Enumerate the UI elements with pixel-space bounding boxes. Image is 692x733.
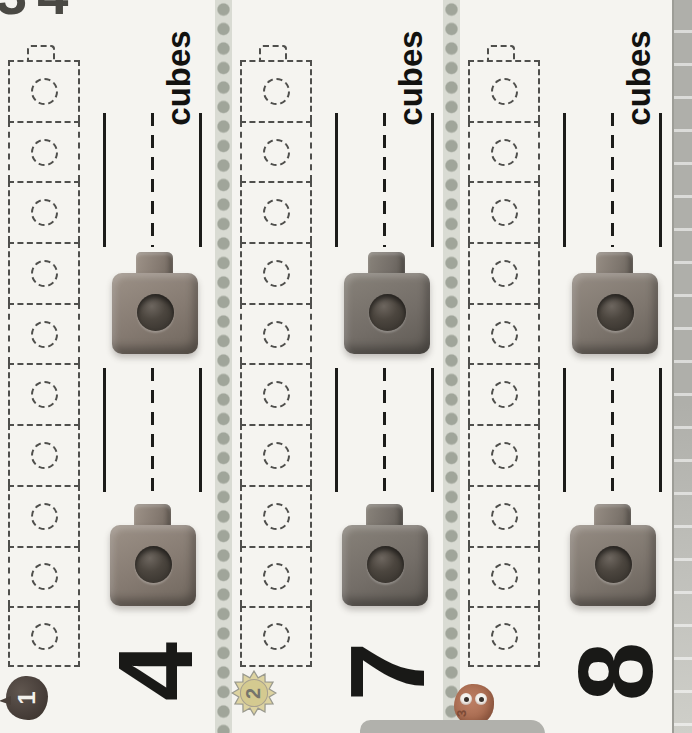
target-number-wrap: 7 <box>332 630 442 712</box>
cube-hole-outline <box>31 623 58 650</box>
cube-hole-outline <box>491 78 518 105</box>
cube-hole-outline <box>31 321 58 348</box>
answer-blank <box>335 113 435 247</box>
cube-hole-outline <box>263 139 290 166</box>
train-cube-outline <box>8 424 80 485</box>
train-cube-outline <box>468 606 540 667</box>
cube-body <box>112 273 198 354</box>
cube-hole-outline <box>31 139 58 166</box>
train-cube-outline <box>240 303 312 364</box>
next-page-corner <box>360 720 545 733</box>
exercise-number: 2 <box>243 687 266 698</box>
monster-eye <box>460 693 472 705</box>
target-number: 7 <box>345 642 430 701</box>
writing-rule-dashed <box>151 113 154 247</box>
train-cells <box>8 60 80 667</box>
answer-blank <box>563 113 663 247</box>
cubes-label: cubes <box>620 30 658 125</box>
target-number: 4 <box>113 642 198 701</box>
writing-rule-solid <box>335 113 338 247</box>
cube-hole <box>137 294 174 331</box>
cube-hole-outline <box>491 260 518 287</box>
writing-rule-solid <box>199 368 202 492</box>
writing-rule-dashed <box>151 368 154 492</box>
cube-hole-outline <box>491 321 518 348</box>
writing-rule-solid <box>431 368 434 492</box>
answer-blank <box>103 368 203 492</box>
cube-hole-outline <box>263 78 290 105</box>
snap-cube-photo <box>342 504 428 606</box>
train-cube-outline <box>8 242 80 303</box>
cubes-label: cubes <box>392 30 430 125</box>
writing-rule-dashed <box>611 368 614 492</box>
train-cube-outline <box>468 424 540 485</box>
cube-hole-outline <box>31 78 58 105</box>
cube-hole <box>595 546 632 583</box>
train-cube-outline <box>240 363 312 424</box>
writing-rule-solid <box>659 368 662 492</box>
cube-body <box>344 273 430 354</box>
writing-rule-solid <box>103 113 106 247</box>
cube-hole-outline <box>31 503 58 530</box>
train-peg-outline <box>27 45 55 60</box>
snap-cube-photo <box>572 252 658 354</box>
train-peg-outline <box>487 45 515 60</box>
exercise-number: 1 <box>13 691 41 704</box>
train-cells <box>468 60 540 667</box>
cube-train-outline <box>8 45 80 667</box>
writing-rule-solid <box>335 368 338 492</box>
cube-hole-outline <box>31 199 58 226</box>
sun-icon: 2 <box>231 670 277 716</box>
writing-rule-solid <box>563 368 566 492</box>
monster-eye <box>475 693 487 705</box>
train-peg-outline <box>259 45 287 60</box>
cube-hole-outline <box>31 260 58 287</box>
exercise-section-2: cubes 7 <box>232 0 447 733</box>
snap-cube-photo <box>570 504 656 606</box>
train-cube-outline <box>468 181 540 242</box>
train-cube-outline <box>8 606 80 667</box>
train-cube-outline <box>468 363 540 424</box>
train-cube-outline <box>240 60 312 121</box>
train-cube-outline <box>8 485 80 546</box>
dotted-separator <box>215 0 232 733</box>
cubes-label: cubes <box>160 30 198 125</box>
cube-hole <box>369 294 406 331</box>
cube-hole-outline <box>263 503 290 530</box>
train-cube-outline <box>240 121 312 182</box>
cube-body <box>110 525 196 606</box>
cube-hole-outline <box>491 442 518 469</box>
cube-body <box>342 525 428 606</box>
writing-rule-solid <box>199 113 202 247</box>
writing-rule-solid <box>563 113 566 247</box>
binding-edge-strip <box>672 0 692 733</box>
train-cube-outline <box>240 424 312 485</box>
cube-train-outline <box>468 45 540 667</box>
target-number: 8 <box>573 642 658 701</box>
train-cube-outline <box>240 242 312 303</box>
writing-rule-solid <box>103 368 106 492</box>
train-cube-outline <box>8 181 80 242</box>
cube-body <box>572 273 658 354</box>
cube-hole-outline <box>263 199 290 226</box>
cube-body <box>570 525 656 606</box>
train-cube-outline <box>240 181 312 242</box>
answer-blank <box>563 368 663 492</box>
cube-hole-outline <box>31 442 58 469</box>
writing-rule-dashed <box>611 113 614 247</box>
train-cube-outline <box>8 546 80 607</box>
monster-pupil <box>479 697 484 702</box>
train-cube-outline <box>8 303 80 364</box>
train-cube-outline <box>468 121 540 182</box>
exercise-section-1: cubes 4 1 <box>0 0 215 733</box>
snap-cube-photo <box>112 252 198 354</box>
monster-icon: 3 <box>454 684 494 725</box>
cube-hole-outline <box>491 563 518 590</box>
cube-hole-outline <box>31 381 58 408</box>
cube-hole-outline <box>31 563 58 590</box>
target-number-wrap: 8 <box>560 630 670 712</box>
train-cube-outline <box>8 121 80 182</box>
writing-rule-dashed <box>383 113 386 247</box>
train-cube-outline <box>8 60 80 121</box>
exercise-number: 3 <box>454 710 469 717</box>
